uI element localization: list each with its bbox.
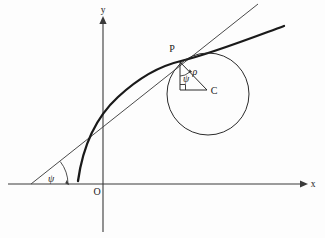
y-axis-label: y [101, 5, 106, 15]
psi-label-at-p: ψ [183, 73, 190, 84]
figure-container: x y O P C [0, 0, 325, 238]
osculating-circle [167, 53, 249, 135]
x-axis-label: x [311, 179, 316, 189]
psi-angle-at-axis [60, 162, 69, 186]
geometry-diagram-canvas: x y O P C [0, 0, 325, 238]
rho-label: ρ [192, 66, 198, 77]
psi-label-at-axis: ψ [48, 173, 55, 184]
point-c-label: C [211, 85, 218, 96]
y-axis-arrowhead [99, 16, 106, 24]
plane-curve [78, 26, 284, 181]
tangent-line [31, 4, 258, 184]
axes-group [8, 16, 308, 232]
right-angle-marker [180, 85, 186, 91]
point-p-label: P [169, 43, 175, 54]
origin-label: O [93, 186, 100, 197]
x-axis-arrowhead [300, 180, 308, 187]
